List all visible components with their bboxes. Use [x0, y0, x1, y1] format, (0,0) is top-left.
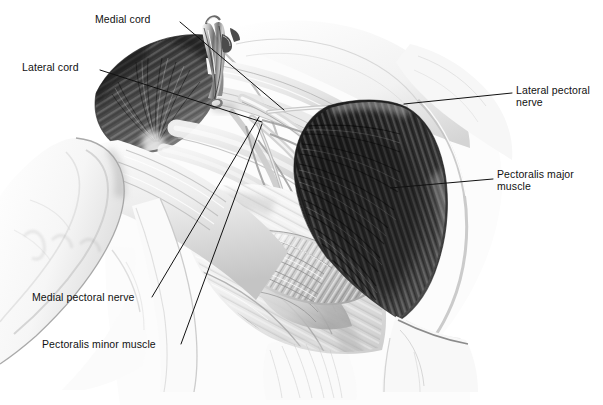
label-lateral-cord: Lateral cord: [22, 61, 79, 73]
label-pectoralis-minor-muscle: Pectoralis minor muscle: [42, 338, 156, 350]
label-lateral-pectoral-nerve: Lateral pectoral nerve: [516, 84, 590, 108]
illustration-canvas: Medial cord Lateral cord Lateral pectora…: [0, 0, 603, 405]
label-pectoralis-major-muscle: Pectoralis major muscle: [497, 168, 574, 192]
label-medial-cord: Medial cord: [95, 13, 150, 25]
label-medial-pectoral-nerve: Medial pectoral nerve: [32, 291, 135, 303]
